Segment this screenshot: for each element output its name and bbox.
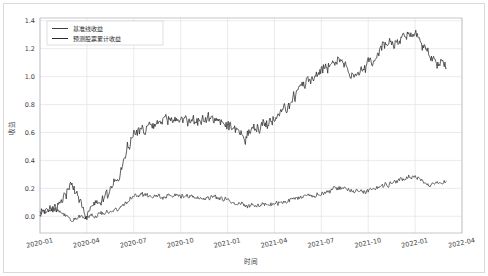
legend-label-predicted: 预测股票累计收益 [73,35,121,43]
series-group [40,30,446,221]
x-axis-tick-labels: 2020-012020-042020-072020-102021-012021-… [25,236,475,249]
x-tick-label: 2022-01 [401,236,429,249]
x-tick-label: 2021-10 [354,236,382,249]
y-tick-label: 0.2 [25,185,35,193]
chart-figure: 0.00.20.40.60.81.01.21.4 2020-012020-042… [0,0,488,276]
y-axis-tick-labels: 0.00.20.40.60.81.01.21.4 [25,17,35,220]
y-axis-title: 收益 [7,121,16,135]
x-tick-label: 2020-10 [166,236,194,249]
x-tick-label: 2020-07 [119,236,147,249]
y-tick-label: 0.0 [25,213,35,221]
y-tick-label: 1.0 [25,73,35,81]
x-axis-title: 时间 [244,257,258,266]
chart-legend[interactable]: 基准线收益预测股票累计收益 [47,21,163,45]
line-chart: 0.00.20.40.60.81.01.21.4 2020-012020-042… [0,0,488,276]
legend-label-benchmark: 基准线收益 [73,25,103,33]
x-tick-label: 2020-04 [72,236,100,249]
x-tick-label: 2021-04 [260,236,288,249]
y-tick-label: 0.4 [25,157,35,165]
y-tick-label: 0.8 [25,101,35,109]
x-tick-label: 2021-07 [307,236,335,249]
series-line-predicted [40,30,446,220]
series-line-benchmark [40,175,446,222]
x-tick-label: 2020-01 [25,236,53,249]
x-tick-label: 2021-01 [213,236,241,249]
y-tick-label: 1.2 [25,45,35,53]
x-tick-label: 2022-04 [447,236,475,249]
y-tick-label: 1.4 [25,17,35,25]
y-tick-label: 0.6 [25,129,35,137]
